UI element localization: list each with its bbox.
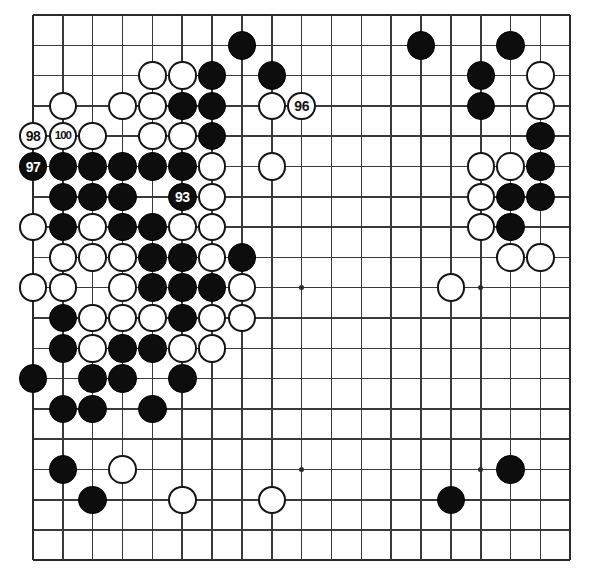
stone-black-c2r7[interactable] — [49, 183, 78, 212]
stone-black-c3r6[interactable] — [78, 152, 107, 181]
grid-line-vertical-19 — [569, 15, 571, 560]
stone-black-c5r12[interactable] — [138, 334, 167, 363]
stone-black-c2r11[interactable] — [49, 304, 78, 333]
stone-white-c6r3[interactable] — [168, 61, 197, 90]
stone-white-c18r9[interactable] — [526, 243, 555, 272]
stone-white-c5r5[interactable] — [138, 122, 167, 151]
stone-black-c7r3[interactable] — [198, 61, 227, 90]
stone-white-c17r6[interactable] — [496, 152, 525, 181]
stone-white-c5r4[interactable] — [138, 92, 167, 121]
stone-black-c17r2[interactable] — [496, 31, 525, 60]
stone-white-c6r12[interactable] — [168, 334, 197, 363]
stone-white-c1r10[interactable] — [19, 273, 48, 302]
stone-black-c18r5[interactable] — [526, 122, 555, 151]
stone-black-c5r9[interactable] — [138, 243, 167, 272]
stone-white-move-98-c1r5[interactable]: 98 — [19, 122, 48, 151]
stone-white-c2r10[interactable] — [49, 273, 78, 302]
stone-black-c2r8[interactable] — [49, 213, 78, 242]
stone-black-c18r6[interactable] — [526, 152, 555, 181]
stone-black-c5r6[interactable] — [138, 152, 167, 181]
stone-black-c7r10[interactable] — [198, 273, 227, 302]
stone-white-c9r4[interactable] — [258, 92, 287, 121]
stone-black-c4r8[interactable] — [108, 213, 137, 242]
stone-white-c9r6[interactable] — [258, 152, 287, 181]
stone-black-c17r7[interactable] — [496, 183, 525, 212]
stone-white-c9r17[interactable] — [258, 486, 287, 515]
stone-black-c4r6[interactable] — [108, 152, 137, 181]
stone-white-c7r6[interactable] — [198, 152, 227, 181]
stone-white-c6r8[interactable] — [168, 213, 197, 242]
stone-black-c16r4[interactable] — [467, 92, 496, 121]
stone-white-move-96-c10r4[interactable]: 96 — [287, 92, 316, 121]
stone-black-c15r17[interactable] — [437, 486, 466, 515]
stone-white-c7r12[interactable] — [198, 334, 227, 363]
stone-black-c7r4[interactable] — [198, 92, 227, 121]
stone-black-move-93-c6r7[interactable]: 93 — [168, 183, 197, 212]
stone-black-c6r6[interactable] — [168, 152, 197, 181]
stone-white-c1r8[interactable] — [19, 213, 48, 242]
stone-white-c2r9[interactable] — [49, 243, 78, 272]
stone-black-c6r4[interactable] — [168, 92, 197, 121]
stone-black-c5r14[interactable] — [138, 395, 167, 424]
stone-white-c3r5[interactable] — [78, 122, 107, 151]
stone-black-c4r12[interactable] — [108, 334, 137, 363]
stone-white-c4r4[interactable] — [108, 92, 137, 121]
stone-black-c5r10[interactable] — [138, 273, 167, 302]
stone-white-c3r12[interactable] — [78, 334, 107, 363]
stone-white-c6r17[interactable] — [168, 486, 197, 515]
stone-white-c5r11[interactable] — [138, 304, 167, 333]
stone-white-c7r11[interactable] — [198, 304, 227, 333]
stone-black-c4r13[interactable] — [108, 364, 137, 393]
stone-black-c17r8[interactable] — [496, 213, 525, 242]
stone-black-c18r7[interactable] — [526, 183, 555, 212]
stone-white-c4r11[interactable] — [108, 304, 137, 333]
stone-white-c16r6[interactable] — [467, 152, 496, 181]
stone-white-c8r10[interactable] — [228, 273, 257, 302]
stone-black-c16r3[interactable] — [467, 61, 496, 90]
stone-white-c2r4[interactable] — [49, 92, 78, 121]
stone-black-c6r9[interactable] — [168, 243, 197, 272]
stone-white-c16r8[interactable] — [467, 213, 496, 242]
stone-black-c3r17[interactable] — [78, 486, 107, 515]
go-board[interactable]: 96981009793 — [0, 0, 589, 586]
stone-white-c4r16[interactable] — [108, 455, 137, 484]
stone-black-c3r14[interactable] — [78, 395, 107, 424]
stone-white-c18r3[interactable] — [526, 61, 555, 90]
stone-black-c4r7[interactable] — [108, 183, 137, 212]
stone-black-c9r3[interactable] — [258, 61, 287, 90]
stone-black-c3r13[interactable] — [78, 364, 107, 393]
stone-white-c3r8[interactable] — [78, 213, 107, 242]
stone-white-c7r8[interactable] — [198, 213, 227, 242]
stone-black-c14r2[interactable] — [407, 31, 436, 60]
stone-white-move-100-c2r5[interactable]: 100 — [49, 122, 78, 151]
stone-white-c4r10[interactable] — [108, 273, 137, 302]
stone-black-c2r6[interactable] — [49, 152, 78, 181]
stone-black-c5r8[interactable] — [138, 213, 167, 242]
stone-black-c7r5[interactable] — [198, 122, 227, 151]
stone-white-c15r10[interactable] — [437, 273, 466, 302]
stone-white-c8r11[interactable] — [228, 304, 257, 333]
stone-black-c2r12[interactable] — [49, 334, 78, 363]
stone-black-c6r11[interactable] — [168, 304, 197, 333]
stone-black-c6r13[interactable] — [168, 364, 197, 393]
stone-black-c6r10[interactable] — [168, 273, 197, 302]
stone-white-c5r3[interactable] — [138, 61, 167, 90]
stone-black-c2r14[interactable] — [49, 395, 78, 424]
stone-white-c7r7[interactable] — [198, 183, 227, 212]
stone-black-c8r9[interactable] — [228, 243, 257, 272]
stone-white-c4r9[interactable] — [108, 243, 137, 272]
stone-black-c2r16[interactable] — [49, 455, 78, 484]
stone-black-c3r7[interactable] — [78, 183, 107, 212]
move-number-label: 93 — [175, 190, 190, 204]
stone-white-c3r11[interactable] — [78, 304, 107, 333]
stone-black-c17r16[interactable] — [496, 455, 525, 484]
stone-white-c7r9[interactable] — [198, 243, 227, 272]
stone-black-c1r13[interactable] — [19, 364, 48, 393]
stone-white-c3r9[interactable] — [78, 243, 107, 272]
stone-white-c6r5[interactable] — [168, 122, 197, 151]
stone-white-c17r9[interactable] — [496, 243, 525, 272]
stone-white-c18r4[interactable] — [526, 92, 555, 121]
stone-white-c16r7[interactable] — [467, 183, 496, 212]
stone-black-c8r2[interactable] — [228, 31, 257, 60]
stone-black-move-97-c1r6[interactable]: 97 — [19, 152, 48, 181]
